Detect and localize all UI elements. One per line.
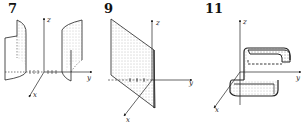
plane-diagram bbox=[100, 0, 200, 129]
x-axis-label: x bbox=[126, 117, 130, 124]
y-axis-label: y bbox=[189, 80, 193, 87]
figure-11: 11 z y x bbox=[200, 0, 302, 129]
z-axis-label: z bbox=[47, 17, 51, 24]
y-axis-label: y bbox=[87, 75, 91, 82]
y-axis-label: y bbox=[296, 75, 300, 82]
figure-7: 7 z y bbox=[0, 0, 100, 129]
figure-9: 9 z y x bbox=[100, 0, 200, 129]
z-axis-label: z bbox=[156, 20, 160, 27]
x-axis-label: x bbox=[33, 92, 37, 99]
x-axis-label: x bbox=[215, 107, 219, 114]
z-axis-label: z bbox=[243, 19, 247, 26]
